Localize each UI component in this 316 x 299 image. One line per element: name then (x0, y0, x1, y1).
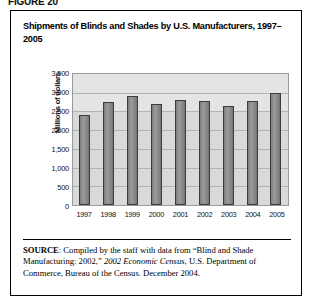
x-axis-tick-label: 2001 (169, 210, 191, 222)
y-axis-tick-label: 2,000 (52, 126, 70, 135)
figure-bordered-box: Shipments of Blinds and Shades by U.S. M… (10, 10, 302, 296)
y-axis-tick-label: 3,500 (52, 69, 70, 78)
source-note: SOURCE: Compiled by the staff with data … (23, 245, 295, 279)
plot-area (72, 73, 289, 206)
bar-series (73, 74, 288, 205)
source-prefix: SOURCE (23, 245, 59, 255)
bar (151, 104, 162, 205)
source-divider (23, 239, 291, 240)
bar (199, 101, 210, 205)
x-axis-tick-label: 1999 (121, 210, 143, 222)
bar (270, 93, 281, 205)
y-axis-tick-label: 3,000 (52, 88, 70, 97)
source-publication-title: 2002 Economic Census (104, 256, 185, 266)
bar (127, 96, 138, 205)
y-axis-tick-labels: 3,5003,0002,5002,0001,5001,0005000 (37, 73, 69, 206)
x-axis-tick-label: 1997 (73, 210, 95, 222)
x-axis-tick-label: 2003 (218, 210, 240, 222)
y-axis-tick-label: 1,500 (52, 145, 70, 154)
bar (103, 102, 114, 205)
x-axis-tick-labels: 199719981999200020012002200320042005 (72, 210, 289, 222)
x-axis-tick-label: 2002 (194, 210, 216, 222)
figure-number-label: FIGURE 20 (8, 0, 58, 7)
bar (79, 115, 90, 205)
bar (247, 101, 258, 205)
figure-title: Shipments of Blinds and Shades by U.S. M… (23, 20, 291, 45)
y-axis-tick-label: 1,000 (52, 164, 70, 173)
bar-chart: Millions of dollars 3,5003,0002,5002,000… (23, 60, 291, 232)
x-axis-tick-label: 2005 (266, 210, 288, 222)
x-axis-tick-label: 2000 (145, 210, 167, 222)
figure-container: FIGURE 20 Shipments of Blinds and Shades… (0, 0, 316, 299)
x-axis-tick-label: 2004 (242, 210, 264, 222)
y-axis-tick-label: 500 (57, 183, 69, 192)
bar (223, 106, 234, 205)
y-axis-tick-label: 0 (65, 202, 69, 211)
y-axis-tick-label: 2,500 (52, 107, 70, 116)
x-axis-tick-label: 1998 (97, 210, 119, 222)
bar (175, 100, 186, 205)
